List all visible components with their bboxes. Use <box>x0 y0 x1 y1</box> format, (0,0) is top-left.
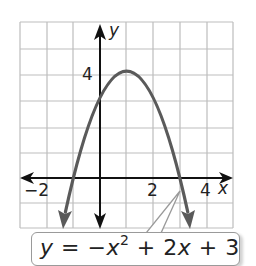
x-axis-label: x <box>218 178 228 198</box>
y-axis <box>94 24 106 229</box>
parabola-curve <box>65 71 187 212</box>
y-tick-label-4: 4 <box>82 64 93 84</box>
x-tick-label-2: 2 <box>147 180 158 200</box>
x-tick-label-4: 4 <box>200 180 211 200</box>
y-axis-label: y <box>109 20 119 40</box>
x-tick-label-neg2: −2 <box>24 180 49 200</box>
equation-label: y = −x2 + 2x + 3 <box>40 234 240 260</box>
